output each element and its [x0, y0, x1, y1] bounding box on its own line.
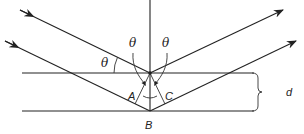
label-theta-left: θ: [129, 36, 137, 50]
incident-ray-upper-arrow: [20, 10, 30, 15]
perpendicular-a: [135, 73, 150, 104]
reflection-point: [148, 71, 152, 75]
curved-arrow-right: [155, 53, 167, 84]
bragg-diagram: θ θ θ A C B d: [0, 0, 304, 134]
label-point-b: B: [145, 119, 152, 131]
reflected-ray-upper: [150, 10, 283, 73]
label-point-c: C: [165, 90, 173, 102]
label-theta-incident: θ: [101, 56, 109, 70]
label-theta-right: θ: [162, 36, 170, 50]
angle-arc-theta-incident: [114, 57, 118, 73]
perpendicular-c: [150, 73, 165, 104]
curved-arrow-left: [133, 53, 145, 84]
spacing-bracket: [252, 73, 262, 111]
label-point-a: A: [127, 90, 135, 102]
incident-ray-lower-arrow: [5, 41, 15, 46]
label-spacing-d: d: [286, 86, 293, 98]
